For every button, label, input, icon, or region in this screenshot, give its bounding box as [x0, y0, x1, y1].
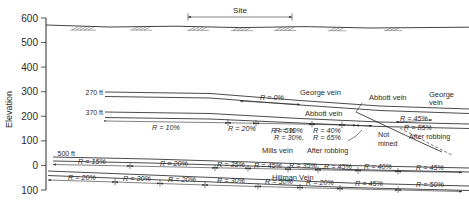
hillman-dim-row: R = 20% R = 30% R = 20% R = 30% R = 50% … — [48, 173, 462, 193]
george-dim-0pct: R = 0% — [240, 93, 300, 105]
r-label-hillman-2: R = 30% — [123, 174, 151, 183]
r-label-mills-1: R = 15% — [78, 157, 106, 166]
r-label-mills-2: R = 20% — [160, 159, 188, 168]
abbott-robbing-branch: R = 45% R = 85% After robbing — [356, 112, 452, 155]
r-label-abbott-9: R = 85% — [404, 123, 432, 132]
r-label-abbott-8: R = 45% — [400, 114, 428, 123]
hatch-patch-2 — [130, 27, 152, 30]
seam-hillman-vein: Hillman Vein R = 20% R = 30% R = 20% R =… — [48, 171, 469, 193]
hatch-patch-5 — [274, 27, 296, 30]
seam-label-george-right-2: vein — [429, 98, 443, 107]
hatch-patch-6 — [328, 28, 346, 31]
y-tick-100: 100 — [21, 135, 38, 146]
r-label-mills-4: R = 45% — [254, 161, 282, 170]
depth-marker-500ft: 500 ft — [57, 150, 75, 157]
seam-label-abbott-right: Abbott vein — [369, 93, 407, 102]
y-axis-title: Elevation — [4, 91, 14, 128]
abbott-dim-dense: R = 10% R = 40% R = 30%, R = 65% — [274, 126, 362, 142]
depth-marker-370ft: 370 ft — [85, 109, 103, 116]
r-label-george-1: R = 0% — [260, 93, 284, 102]
y-tick-200: 200 — [21, 111, 38, 122]
hatch-patch-1 — [70, 27, 96, 30]
site-label: Site — [233, 6, 247, 15]
r-label-hillman-5: R = 50% — [265, 177, 293, 186]
depth-marker-270ft: 270 ft — [85, 89, 103, 96]
y-tick-500: 500 — [21, 37, 38, 48]
r-label-hillman-4: R = 30% — [217, 176, 245, 185]
y-tick-600: 600 — [21, 13, 38, 24]
hatch-patch-3 — [187, 27, 209, 30]
r-label-hillman-3: R = 20% — [168, 175, 196, 184]
y-axis-title-label: Elevation — [4, 91, 14, 128]
not-mined-note: Not mined — [378, 130, 398, 148]
mills-dim-row: R = 15% R = 20% R = 35% R = 45% R = 35% … — [53, 157, 462, 175]
r-label-mills-6: R = 45% — [324, 162, 352, 171]
note-after-robbing-abbott: After robbing — [409, 132, 450, 141]
r-label-abbott-7: R = 65% — [313, 133, 341, 142]
y-tick-300: 300 — [21, 86, 38, 97]
seam-label-mills: Mills vein — [262, 146, 293, 155]
r-label-mills-8: R = 45% — [416, 163, 444, 172]
site-dimension: Site — [188, 6, 292, 21]
y-axis: Elevation 600 500 400 300 200 100 0 100 — [4, 13, 46, 196]
cross-section-svg: Elevation 600 500 400 300 200 100 0 100 … — [0, 0, 469, 211]
y-axis-ticks: 600 500 400 300 200 100 0 100 — [21, 13, 46, 196]
r-label-abbott-2: R = 20% — [228, 124, 256, 133]
r-label-mills-3: R = 35% — [217, 160, 245, 169]
ground-surface — [46, 25, 469, 31]
note-not: Not — [378, 130, 389, 139]
seam-mills-vein: 500 ft Mills vein After robbing R = 15% … — [53, 146, 469, 175]
y-tick-0: 0 — [32, 160, 38, 171]
figure-cross-section: Elevation 600 500 400 300 200 100 0 100 … — [0, 0, 469, 211]
r-label-abbott-1: R = 10% — [152, 123, 180, 132]
r-label-hillman-7: R = 45% — [355, 179, 383, 188]
r-label-hillman-1: R = 20% — [68, 173, 96, 182]
seam-label-abbott-left: Abbott vein — [305, 109, 343, 118]
note-after-robbing-mills: After robbing — [307, 146, 348, 155]
r-label-hillman-6: R = 20% — [306, 178, 334, 187]
seam-george-vein: 270 ft George vein George vein R = 0% — [85, 88, 469, 114]
y-tick-neg100: 100 — [21, 185, 38, 196]
r-label-abbott-6: R = 30%, — [274, 133, 304, 142]
y-tick-400: 400 — [21, 62, 38, 73]
note-mined: mined — [378, 139, 398, 148]
r-label-hillman-8: R = 50% — [416, 180, 444, 189]
r-label-mills-7: R = 40% — [364, 162, 392, 171]
seam-label-george-left: George vein — [300, 88, 341, 97]
r-label-mills-5: R = 35% — [289, 161, 317, 170]
